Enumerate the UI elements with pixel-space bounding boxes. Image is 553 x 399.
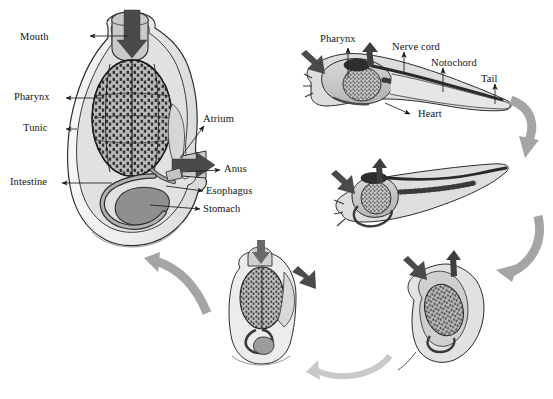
settling-incurrent-arrow — [331, 170, 355, 194]
rotating-incurrent-arrow — [403, 256, 427, 280]
adult-label-esophagus: Esophagus — [206, 185, 252, 196]
stage-adult-tunicate — [62, 10, 220, 247]
arrow-settling-to-rotating — [496, 216, 540, 282]
arrow-juvenile-to-adult — [144, 252, 207, 313]
stage-juvenile — [229, 240, 316, 365]
settling-pharynx — [361, 182, 391, 214]
larva-label-notochord: Notochord — [431, 57, 477, 68]
rotating-stolon — [398, 352, 416, 370]
larva-label-tail: Tail — [481, 73, 498, 84]
settling-sensory-vesicle — [361, 173, 387, 184]
cycle-arrows — [144, 100, 540, 380]
stage-rotating-juvenile — [398, 250, 484, 370]
larva-label-heart: Heart — [418, 108, 442, 119]
adult-label-anus: Anus — [224, 163, 247, 174]
leader-heart — [385, 103, 410, 114]
larva-label-pharynx: Pharynx — [320, 33, 356, 44]
adult-pharynx-basket — [92, 60, 172, 176]
arrow-rotating-to-juvenile — [306, 356, 390, 380]
stage-settling-larva — [331, 158, 508, 226]
adult-label-stomach: Stomach — [203, 203, 240, 214]
adult-label-pharynx: Pharynx — [14, 91, 50, 102]
adult-label-atrium: Atrium — [203, 113, 234, 124]
adult-label-intestine: Intestine — [10, 176, 47, 187]
stage-larva-tadpole — [301, 42, 511, 114]
larva-label-nerve-cord: Nerve cord — [392, 41, 440, 52]
juvenile-stomach — [254, 337, 275, 354]
larva-pharynx — [343, 67, 381, 101]
adult-label-mouth: Mouth — [20, 31, 49, 42]
arrow-larva-to-settling — [511, 100, 539, 158]
larva-incurrent-arrow — [301, 50, 325, 74]
tunicate-lifecycle-figure: Mouth Pharynx Tunic Intestine Atrium Anu… — [0, 0, 553, 399]
adult-label-tunic: Tunic — [23, 122, 48, 133]
